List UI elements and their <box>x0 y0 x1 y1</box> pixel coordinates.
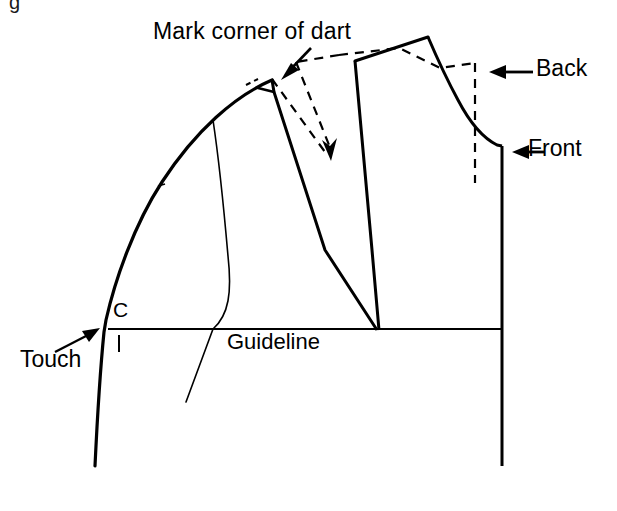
rotated-panel-outer-curve <box>95 80 272 466</box>
back-arrowhead-icon <box>489 65 506 79</box>
dart-dashed-left-leg <box>272 79 325 152</box>
front-armhole-curve <box>428 37 502 146</box>
label-touch: Touch <box>20 348 81 371</box>
label-back: Back <box>536 57 587 80</box>
label-point-c: C <box>113 299 128 320</box>
touch-arrowhead-icon <box>82 328 100 342</box>
rotated-panel-shoulder-edge <box>258 88 274 92</box>
rotated-panel-inner-curve-lower <box>186 329 213 402</box>
label-mark-corner-of-dart: Mark corner of dart <box>153 20 351 43</box>
pattern-diagram: g <box>0 0 617 511</box>
rotated-panel-inner-curve <box>213 120 230 329</box>
dart-corner-tick-dashed <box>246 79 258 85</box>
label-guideline: Guideline <box>227 331 320 353</box>
pattern-drawing-canvas <box>0 0 617 511</box>
front-arrowhead-icon <box>512 145 529 159</box>
label-front: Front <box>528 137 582 160</box>
front-center-edge <box>355 61 379 330</box>
